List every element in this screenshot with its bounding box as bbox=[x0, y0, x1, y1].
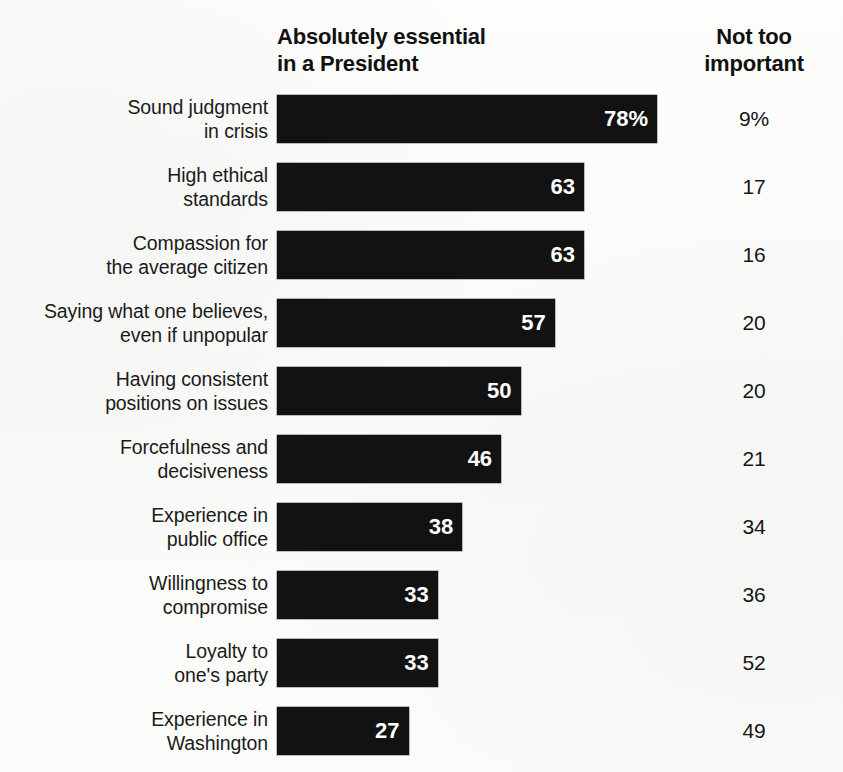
column-header-line-2: in a President bbox=[277, 50, 607, 77]
bar-value-label: 27 bbox=[375, 720, 408, 742]
bar: 46 bbox=[277, 435, 501, 483]
row-category-label-line-2: one's party bbox=[174, 663, 268, 687]
bar: 33 bbox=[277, 571, 438, 619]
column-header-line-2: important bbox=[666, 50, 842, 77]
row-category-label-line-2: in crisis bbox=[204, 119, 268, 143]
bar: 63 bbox=[277, 163, 584, 211]
bar: 63 bbox=[277, 231, 584, 279]
row-category-label-line-1: Experience in bbox=[151, 707, 268, 731]
row-category-label-line-2: standards bbox=[183, 187, 268, 211]
bar-track: 63 bbox=[277, 231, 667, 279]
not-too-important-value: 49 bbox=[666, 707, 842, 755]
row-category-label: Experience inpublic office bbox=[0, 503, 268, 551]
row-category-label: Sound judgmentin crisis bbox=[0, 95, 268, 143]
bar-value-label: 33 bbox=[404, 652, 437, 674]
bar-track: 78% bbox=[277, 95, 667, 143]
not-too-important-value: 20 bbox=[666, 299, 842, 347]
row-category-label-line-1: Forcefulness and bbox=[120, 435, 268, 459]
row-category-label-line-1: Sound judgment bbox=[127, 95, 268, 119]
bar-track: 46 bbox=[277, 435, 667, 483]
bar-value-label: 50 bbox=[487, 380, 520, 402]
row-category-label-line-2: the average citizen bbox=[106, 255, 268, 279]
chart-row: Having consistentpositions on issues5020 bbox=[0, 367, 843, 435]
bar: 38 bbox=[277, 503, 462, 551]
not-too-important-value: 17 bbox=[666, 163, 842, 211]
chart-row: Experience inpublic office3834 bbox=[0, 503, 843, 571]
column-header-absolutely-essential: Absolutely essential in a President bbox=[277, 23, 607, 77]
not-too-important-value: 36 bbox=[666, 571, 842, 619]
chart-row: Willingness tocompromise3336 bbox=[0, 571, 843, 639]
bar-track: 50 bbox=[277, 367, 667, 415]
row-category-label-line-1: Compassion for bbox=[133, 231, 268, 255]
row-category-label-line-1: Loyalty to bbox=[186, 639, 268, 663]
chart-page: Absolutely essential in a President Not … bbox=[0, 0, 843, 772]
not-too-important-value: 21 bbox=[666, 435, 842, 483]
row-category-label: Experience inWashington bbox=[0, 707, 268, 755]
bar-track: 63 bbox=[277, 163, 667, 211]
bar-value-label: 78% bbox=[604, 108, 657, 130]
bar-value-label: 63 bbox=[550, 176, 583, 198]
row-category-label-line-2: public office bbox=[167, 527, 268, 551]
row-category-label-line-1: Saying what one believes, bbox=[44, 299, 268, 323]
bar: 78% bbox=[277, 95, 657, 143]
row-category-label: Having consistentpositions on issues bbox=[0, 367, 268, 415]
bar-track: 38 bbox=[277, 503, 667, 551]
chart-row: Forcefulness anddecisiveness4621 bbox=[0, 435, 843, 503]
column-header-line-1: Absolutely essential bbox=[277, 23, 607, 50]
row-category-label: Saying what one believes,even if unpopul… bbox=[0, 299, 268, 347]
bar: 27 bbox=[277, 707, 409, 755]
not-too-important-value: 16 bbox=[666, 231, 842, 279]
row-category-label-line-2: positions on issues bbox=[105, 391, 268, 415]
row-category-label: High ethicalstandards bbox=[0, 163, 268, 211]
row-category-label-line-2: Washington bbox=[167, 731, 268, 755]
bar: 50 bbox=[277, 367, 521, 415]
not-too-important-value: 34 bbox=[666, 503, 842, 551]
bar-value-label: 38 bbox=[429, 516, 462, 538]
chart-rows: Sound judgmentin crisis78%9%High ethical… bbox=[0, 95, 843, 772]
chart-row: Compassion forthe average citizen6316 bbox=[0, 231, 843, 299]
bar-track: 27 bbox=[277, 707, 667, 755]
column-header-not-too-important: Not too important bbox=[666, 23, 842, 77]
row-category-label: Forcefulness anddecisiveness bbox=[0, 435, 268, 483]
chart-row: Loyalty toone's party3352 bbox=[0, 639, 843, 707]
not-too-important-value: 20 bbox=[666, 367, 842, 415]
row-category-label-line-1: Willingness to bbox=[149, 571, 268, 595]
chart-row: Experience inWashington2749 bbox=[0, 707, 843, 772]
row-category-label-line-1: Experience in bbox=[151, 503, 268, 527]
chart-row: Sound judgmentin crisis78%9% bbox=[0, 95, 843, 163]
bar: 57 bbox=[277, 299, 555, 347]
bar-track: 57 bbox=[277, 299, 667, 347]
column-header-line-1: Not too bbox=[666, 23, 842, 50]
row-category-label-line-2: even if unpopular bbox=[120, 323, 268, 347]
bar-value-label: 46 bbox=[468, 448, 501, 470]
chart-row: Saying what one believes,even if unpopul… bbox=[0, 299, 843, 367]
row-category-label-line-1: Having consistent bbox=[116, 367, 268, 391]
row-category-label-line-2: compromise bbox=[163, 595, 268, 619]
row-category-label: Loyalty toone's party bbox=[0, 639, 268, 687]
bar-value-label: 57 bbox=[521, 312, 554, 334]
row-category-label: Compassion forthe average citizen bbox=[0, 231, 268, 279]
not-too-important-value: 52 bbox=[666, 639, 842, 687]
row-category-label-line-1: High ethical bbox=[167, 163, 268, 187]
not-too-important-value: 9% bbox=[666, 95, 842, 143]
bar: 33 bbox=[277, 639, 438, 687]
bar-value-label: 63 bbox=[550, 244, 583, 266]
row-category-label-line-2: decisiveness bbox=[158, 459, 268, 483]
bar-track: 33 bbox=[277, 639, 667, 687]
bar-track: 33 bbox=[277, 571, 667, 619]
chart-row: High ethicalstandards6317 bbox=[0, 163, 843, 231]
row-category-label: Willingness tocompromise bbox=[0, 571, 268, 619]
bar-value-label: 33 bbox=[404, 584, 437, 606]
